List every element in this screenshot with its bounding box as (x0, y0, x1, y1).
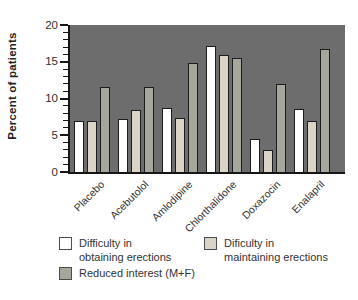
legend-label: Dificulty inmaintaining erections (224, 236, 328, 264)
legend-swatch (59, 237, 72, 250)
y-axis-label: Percent of patients (6, 6, 22, 166)
bar-acebutolol-series1 (118, 119, 128, 172)
plot-area (68, 25, 345, 174)
bar-chlorthalidone-series2 (219, 55, 229, 172)
legend-swatch (59, 267, 72, 280)
bar-acebutolol-series3 (144, 87, 154, 172)
legend-label-line2: maintaining erections (224, 251, 328, 263)
legend-label-line1: Difficulty in (79, 237, 132, 249)
chart: Percent of patients 05101520 PlaceboAceb… (0, 0, 358, 300)
y-tick-label: 15 (36, 54, 58, 69)
legend-item-obtaining-erections: Difficulty inobtaining erections (59, 236, 171, 264)
y-major-tick (60, 98, 68, 100)
bar-amlodipine-series3 (188, 63, 198, 172)
bar-doxazocin-series3 (276, 84, 286, 172)
bar-acebutolol-series2 (131, 110, 141, 172)
legend-item-reduced-interest: Reduced interest (M+F) (59, 266, 195, 280)
bar-amlodipine-series2 (175, 118, 185, 172)
y-tick-label: 10 (36, 91, 58, 106)
legend-label-line1: Dificulty in (224, 237, 274, 249)
legend-swatch (204, 237, 217, 250)
bar-enalapril-series3 (320, 49, 330, 172)
bar-placebo-series3 (100, 87, 110, 172)
bar-enalapril-series2 (307, 121, 317, 172)
y-tick-label: 5 (36, 128, 58, 143)
legend-label: Difficulty inobtaining erections (79, 236, 171, 264)
bar-amlodipine-series1 (162, 108, 172, 172)
bar-chlorthalidone-series1 (206, 46, 216, 172)
y-tick-label: 0 (36, 165, 58, 180)
y-major-tick (60, 24, 68, 26)
legend-label-line1: Reduced interest (M+F) (79, 267, 195, 279)
legend-label: Reduced interest (M+F) (79, 266, 195, 280)
y-tick-label: 20 (36, 18, 58, 33)
bar-placebo-series1 (74, 121, 84, 172)
bar-doxazocin-series1 (250, 139, 260, 172)
bar-chlorthalidone-series3 (232, 58, 242, 172)
legend-label-line2: obtaining erections (79, 251, 171, 263)
y-major-tick (60, 61, 68, 63)
bar-placebo-series2 (87, 121, 97, 172)
bar-enalapril-series1 (294, 109, 304, 172)
y-major-tick (60, 134, 68, 136)
y-major-tick (60, 171, 68, 173)
legend-item-maintaining-erections: Dificulty inmaintaining erections (204, 236, 328, 264)
bar-doxazocin-series2 (263, 150, 273, 172)
